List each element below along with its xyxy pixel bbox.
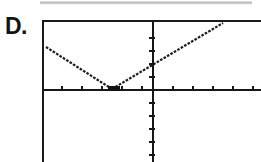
graph-plot: [42, 20, 261, 162]
calculator-screen: [42, 20, 261, 162]
graph-right-branch: [112, 23, 223, 89]
graph-vertex-point: [108, 86, 120, 91]
choice-letter-label: D.: [5, 15, 27, 38]
graph-left-branch: [46, 47, 112, 89]
scan-artifact-band: [40, 1, 252, 5]
